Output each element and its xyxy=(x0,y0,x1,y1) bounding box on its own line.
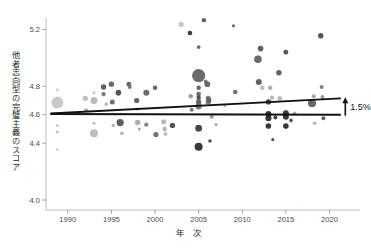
data-point xyxy=(128,85,132,89)
data-point xyxy=(207,98,212,103)
data-points-group xyxy=(51,18,325,151)
data-point xyxy=(56,124,59,127)
axes-group: 5.24.84.64.44.01990199520002005201020152… xyxy=(29,18,360,224)
data-point xyxy=(135,120,140,125)
data-point xyxy=(313,121,317,125)
data-point xyxy=(318,33,323,38)
data-point xyxy=(101,84,106,89)
scatter-plot-canvas: 5.24.84.64.44.01990199520002005201020152… xyxy=(0,0,371,248)
data-point xyxy=(195,125,202,132)
data-point xyxy=(105,102,108,105)
data-point xyxy=(215,123,218,126)
x-axis-tick-label: 2015 xyxy=(277,215,294,224)
data-point xyxy=(258,46,264,52)
data-point xyxy=(188,31,193,36)
data-point xyxy=(153,132,158,137)
chart-figure: 他者志向型の完璧主義のスコア 5.24.84.64.44.01990199520… xyxy=(0,0,371,248)
y-axis-tick-label: 4.4 xyxy=(29,139,40,148)
data-point xyxy=(111,124,114,127)
annotations-group: 1.5% xyxy=(342,97,371,115)
data-point xyxy=(232,24,235,27)
data-point xyxy=(283,50,288,55)
data-point xyxy=(277,96,282,101)
data-point xyxy=(312,94,316,98)
data-point xyxy=(271,138,274,141)
figure-caption xyxy=(2,238,302,248)
data-point xyxy=(56,88,59,91)
y-axis-tick-label: 4.8 xyxy=(29,82,40,91)
data-point xyxy=(208,139,212,143)
data-point xyxy=(210,115,214,119)
data-point xyxy=(92,91,95,94)
data-point xyxy=(117,119,124,126)
data-point xyxy=(109,81,114,86)
x-axis-tick-label: 1995 xyxy=(103,215,120,224)
data-point xyxy=(268,85,272,89)
y-axis-tick-label: 4.0 xyxy=(29,196,40,205)
data-point xyxy=(202,18,206,22)
data-point xyxy=(196,85,200,89)
data-point xyxy=(90,129,98,137)
data-point xyxy=(120,132,123,135)
x-axis-tick-label: 2020 xyxy=(321,215,338,224)
data-point xyxy=(56,148,59,151)
baseline-flat xyxy=(50,114,340,115)
data-point xyxy=(320,85,324,89)
data-point xyxy=(283,123,289,129)
data-point xyxy=(256,79,262,85)
data-point xyxy=(138,127,141,130)
data-point xyxy=(321,116,325,120)
y-axis-tick-label: 4.6 xyxy=(29,110,40,119)
data-point xyxy=(162,127,166,131)
data-point xyxy=(265,115,271,121)
data-point xyxy=(134,98,139,103)
data-point xyxy=(195,143,203,151)
data-point xyxy=(190,108,194,112)
data-point xyxy=(92,122,95,125)
data-point xyxy=(273,116,277,120)
data-point xyxy=(110,99,115,104)
data-point xyxy=(254,55,262,63)
data-point xyxy=(163,132,167,136)
data-point xyxy=(197,45,201,49)
data-point xyxy=(192,69,205,82)
x-axis-label-text: 年 次 xyxy=(176,228,203,238)
data-point xyxy=(266,123,272,129)
data-point xyxy=(260,85,264,89)
data-point xyxy=(276,70,281,75)
data-point xyxy=(101,92,105,96)
data-point xyxy=(83,96,88,101)
data-point xyxy=(289,119,293,123)
data-point xyxy=(116,90,122,96)
data-point xyxy=(270,95,274,99)
data-point xyxy=(161,119,166,124)
data-point xyxy=(196,95,200,99)
data-point xyxy=(51,97,63,109)
data-point xyxy=(189,94,193,98)
x-axis-tick-label: 1990 xyxy=(59,215,76,224)
data-point xyxy=(233,90,238,95)
data-point xyxy=(153,85,157,89)
data-point xyxy=(56,130,59,133)
data-point xyxy=(204,81,210,87)
data-point xyxy=(144,122,148,126)
data-point xyxy=(143,90,149,96)
data-point xyxy=(91,97,98,104)
data-point xyxy=(170,123,175,128)
increase-label: 1.5% xyxy=(350,102,371,112)
increase-arrow-head xyxy=(342,97,348,103)
y-axis-tick-label: 5.2 xyxy=(29,25,40,34)
data-point xyxy=(179,22,184,27)
